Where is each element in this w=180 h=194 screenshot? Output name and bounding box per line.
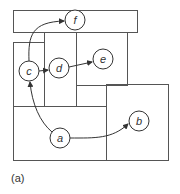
figure-caption: (a) bbox=[11, 172, 24, 184]
diagram-canvas: f c d e a b bbox=[0, 0, 180, 194]
label-c: c bbox=[26, 65, 32, 77]
edge-d-e bbox=[69, 62, 92, 67]
label-a: a bbox=[57, 132, 63, 144]
nodes bbox=[19, 10, 149, 148]
node-labels: f c d e a b bbox=[26, 14, 142, 144]
edge-c-f bbox=[29, 21, 64, 61]
label-b: b bbox=[136, 115, 142, 127]
edges bbox=[29, 21, 128, 138]
edge-a-b bbox=[70, 124, 128, 138]
label-e: e bbox=[100, 53, 106, 65]
edge-c-d bbox=[39, 70, 48, 71]
label-d: d bbox=[56, 62, 63, 74]
